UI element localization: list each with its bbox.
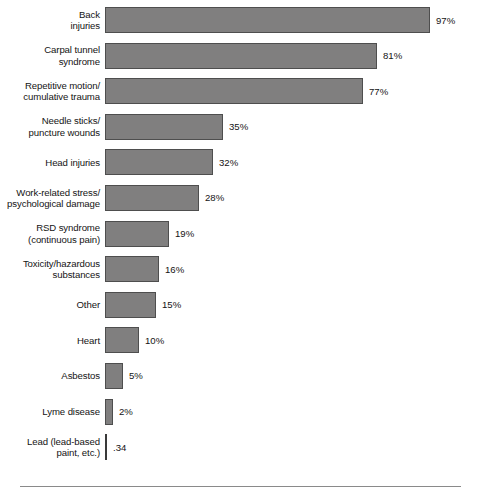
bar-value-label: 77% <box>369 86 388 97</box>
bar <box>105 78 363 104</box>
footer-divider <box>20 486 461 487</box>
bar <box>105 114 223 140</box>
bar-value-label: 2% <box>119 406 133 417</box>
bar-value-label: 19% <box>175 228 194 239</box>
bar-category-label: Repetitive motion/ cumulative trauma <box>0 80 105 103</box>
bar-track: 32% <box>105 149 481 175</box>
bar-value-label: 28% <box>205 192 224 203</box>
bar <box>105 434 107 460</box>
bar-track: 77% <box>105 78 481 104</box>
bar-row: Needle sticks/ puncture wounds35% <box>0 114 481 140</box>
bar-value-label: .34 <box>113 442 126 453</box>
bar-value-label: 32% <box>219 157 238 168</box>
bar-row: Lyme disease2% <box>0 399 481 425</box>
bar-track: 81% <box>105 43 481 69</box>
bar-value-label: 81% <box>383 50 402 61</box>
bar-category-label: Heart <box>0 335 105 346</box>
bar-track: .34 <box>105 434 481 460</box>
bar <box>105 256 159 282</box>
bar-track: 28% <box>105 185 481 211</box>
bar-track: 35% <box>105 114 481 140</box>
bar <box>105 399 113 425</box>
bar-row: Repetitive motion/ cumulative trauma77% <box>0 78 481 104</box>
bar-value-label: 16% <box>165 264 184 275</box>
bar <box>105 292 156 318</box>
bar-category-label: Needle sticks/ puncture wounds <box>0 115 105 138</box>
bar-track: 19% <box>105 221 481 247</box>
bar-category-label: Back injuries <box>0 9 105 32</box>
bar-category-label: Lyme disease <box>0 406 105 417</box>
bar-row: Back injuries97% <box>0 7 481 33</box>
bar-category-label: Carpal tunnel syndrome <box>0 44 105 67</box>
bar-row: Head injuries32% <box>0 149 481 175</box>
bar <box>105 363 123 389</box>
bar-value-label: 35% <box>229 121 248 132</box>
bar-track: 15% <box>105 292 481 318</box>
bar-row: Carpal tunnel syndrome81% <box>0 43 481 69</box>
bar-category-label: Other <box>0 299 105 310</box>
bar-track: 5% <box>105 363 481 389</box>
bar-chart: Back injuries97%Carpal tunnel syndrome81… <box>0 0 481 496</box>
bar-category-label: Work-related stress/ psychological damag… <box>0 187 105 210</box>
bar-row: Heart10% <box>0 327 481 353</box>
bar-category-label: Head injuries <box>0 157 105 168</box>
bar-value-label: 97% <box>436 15 455 26</box>
bar-category-label: Asbestos <box>0 370 105 381</box>
bar <box>105 149 213 175</box>
bar-row: Lead (lead-based paint, etc.).34 <box>0 434 481 460</box>
bar <box>105 327 139 353</box>
bar-value-label: 15% <box>162 299 181 310</box>
bar-category-label: Lead (lead-based paint, etc.) <box>0 436 105 459</box>
bar-track: 10% <box>105 327 481 353</box>
bar-row: Toxicity/hazardous substances16% <box>0 256 481 282</box>
bar-value-label: 5% <box>129 370 143 381</box>
bar-track: 97% <box>105 7 481 33</box>
bar-track: 16% <box>105 256 481 282</box>
bar-row: RSD syndrome (continuous pain)19% <box>0 221 481 247</box>
bar-category-label: Toxicity/hazardous substances <box>0 258 105 281</box>
bar-value-label: 10% <box>145 335 164 346</box>
bar <box>105 7 430 33</box>
bar-row: Other15% <box>0 292 481 318</box>
bar-row: Asbestos5% <box>0 363 481 389</box>
bar <box>105 43 377 69</box>
bar <box>105 185 199 211</box>
bar-track: 2% <box>105 399 481 425</box>
bar <box>105 221 169 247</box>
bar-rows: Back injuries97%Carpal tunnel syndrome81… <box>0 7 481 470</box>
bar-row: Work-related stress/ psychological damag… <box>0 185 481 211</box>
bar-category-label: RSD syndrome (continuous pain) <box>0 222 105 245</box>
